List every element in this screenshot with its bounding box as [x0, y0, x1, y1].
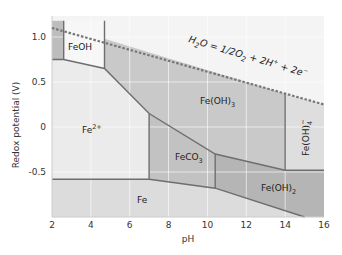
y-tick-label: 0 — [40, 122, 46, 132]
y-axis-ticks: 1.00.50-0.5 — [28, 32, 46, 177]
region-label-fe: Fe — [137, 195, 148, 205]
x-tick-label: 16 — [318, 220, 330, 230]
x-tick-label: 12 — [241, 220, 252, 230]
y-tick-label: -0.5 — [28, 167, 46, 177]
x-tick-label: 10 — [202, 220, 214, 230]
x-tick-label: 4 — [88, 220, 94, 230]
x-tick-label: 14 — [279, 220, 291, 230]
y-tick-label: 1.0 — [32, 32, 47, 42]
pourbaix-diagram: 246810121416 1.00.50-0.5 pH Redox potent… — [0, 0, 342, 255]
x-axis-ticks: 246810121416 — [49, 220, 330, 230]
x-tick-label: 2 — [49, 220, 55, 230]
region-fe2-left-sliver- — [52, 21, 64, 60]
region-label-feoh: FeOH — [68, 42, 92, 52]
y-axis-label: Redox potential (V) — [11, 82, 21, 169]
x-axis-label: pH — [182, 234, 194, 244]
y-tick-label: 0.5 — [32, 77, 46, 87]
x-tick-label: 6 — [127, 220, 133, 230]
x-tick-label: 8 — [166, 220, 172, 230]
